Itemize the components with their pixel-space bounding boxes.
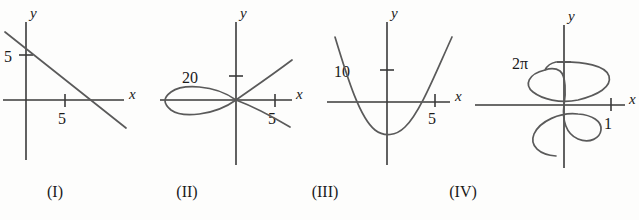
graph-panel-1: 55xy	[3, 5, 136, 160]
tick-label-2-0: 20	[182, 69, 198, 86]
graph-panel-2: 205xy	[160, 5, 303, 165]
x-axis-label-3: x	[454, 88, 462, 104]
y-axis-label-4: y	[566, 8, 575, 24]
tick-label-4-0: 2π	[512, 55, 528, 72]
x-axis-label-2: x	[295, 86, 303, 102]
graph-panel-3: 105xy	[327, 5, 462, 165]
x-axis-label-1: x	[128, 86, 136, 102]
panel-caption-4: (IV)	[428, 183, 498, 201]
panel-caption-1: (I)	[20, 183, 90, 201]
curve-path-4	[528, 62, 609, 156]
y-axis-label-3: y	[389, 5, 398, 21]
panel-caption-3: (III)	[290, 183, 360, 201]
graph-panel-4: 2π1xy	[475, 8, 636, 168]
math-graphs-figure: 55xy205xy105xy2π1xy (I)(II)(III)(IV)	[0, 0, 639, 220]
tick-label-1-0: 5	[4, 48, 12, 65]
tick-label-4-1: 1	[604, 115, 612, 132]
panel-caption-2: (II)	[152, 183, 222, 201]
x-axis-label-4: x	[628, 91, 636, 107]
tick-label-3-1: 5	[428, 110, 436, 127]
tick-label-1-1: 5	[58, 110, 66, 127]
y-axis-label-2: y	[238, 5, 247, 21]
y-axis-label-1: y	[28, 5, 37, 21]
